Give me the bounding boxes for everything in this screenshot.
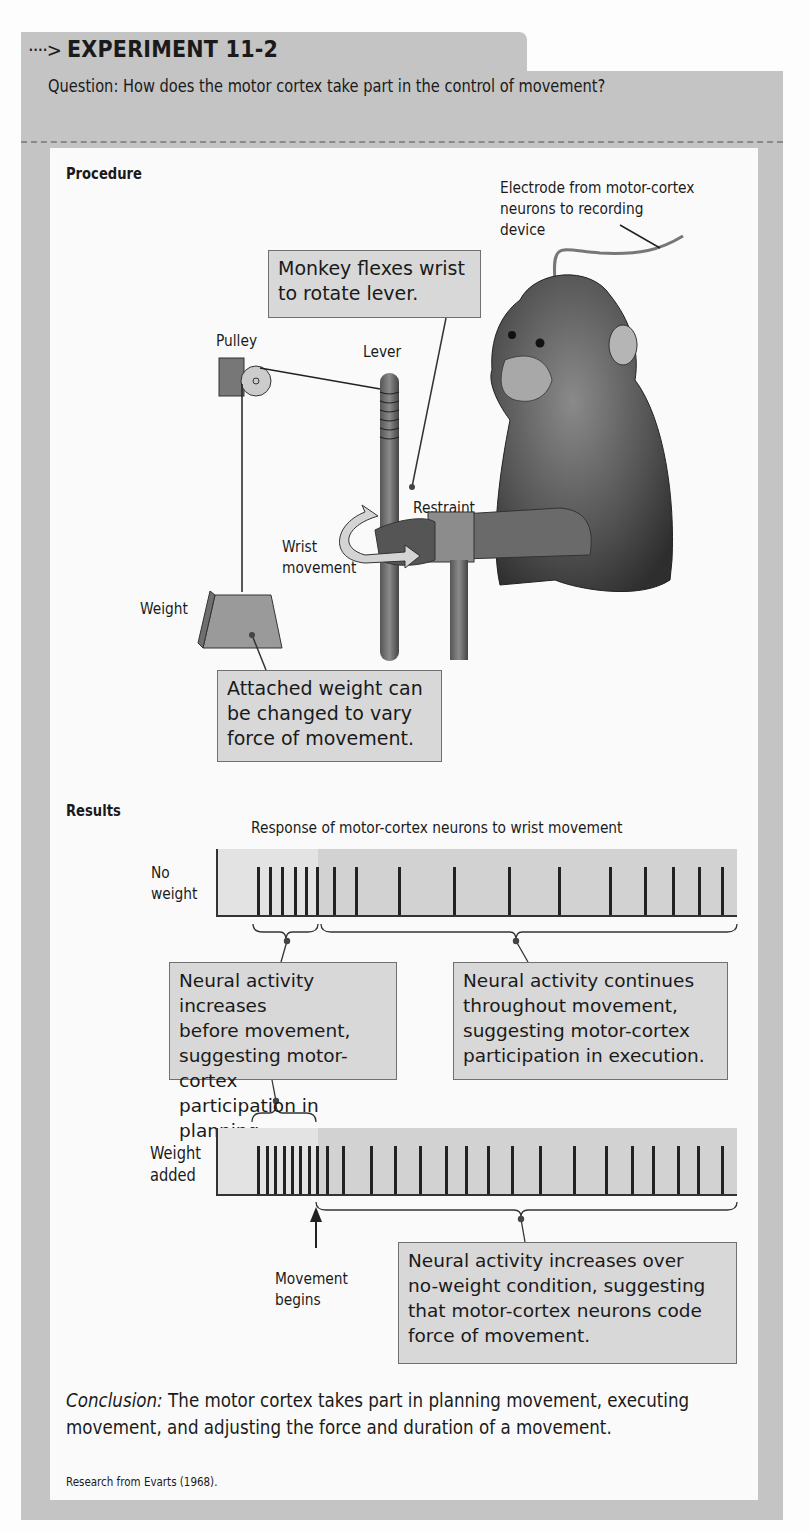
callout-line: before movement, [179,1018,387,1043]
raster-weight-added [216,1128,737,1196]
row-label-weight-added: Weight added [150,1142,201,1186]
callout-line: that motor-cortex neurons code [408,1298,727,1323]
callout-line: participation in execution. [463,1043,718,1068]
spike [677,1146,680,1194]
spike [721,1146,724,1194]
execution-callout: Neural activity continues throughout mov… [453,962,728,1080]
spike [539,1146,542,1194]
spike [274,1146,277,1194]
callout-line: force of movement. [408,1323,727,1348]
callout-line: no-weight condition, suggesting [408,1273,727,1298]
conclusion-label: Conclusion: [66,1389,163,1411]
movement-begins-label: Movement begins [275,1268,348,1310]
callout-line: Neural activity increases [179,968,387,1018]
spike [445,1146,448,1194]
research-credit: Research from Evarts (1968). [66,1475,217,1489]
spike [299,1146,302,1194]
marker-label-line: Movement [275,1268,348,1289]
spike [652,1146,655,1194]
spike [631,1146,634,1194]
callout-line: throughout movement, [463,993,718,1018]
planning-callout: Neural activity increases before movemen… [169,962,397,1080]
spike [266,1146,269,1194]
spike [283,1146,286,1194]
spike [342,1146,345,1194]
callout-line: Neural activity increases over [408,1248,727,1273]
spike [573,1146,576,1194]
spike [465,1146,468,1194]
spike [511,1146,514,1194]
force-callout: Neural activity increases over no-weight… [398,1242,737,1364]
callout-line: suggesting motor-cortex [463,1018,718,1043]
spike [326,1146,329,1194]
marker-label-line: begins [275,1289,348,1310]
spike [257,1146,260,1194]
spike [291,1146,294,1194]
spike [308,1146,311,1194]
spike [316,1146,319,1194]
spike [487,1146,490,1194]
conclusion: Conclusion: The motor cortex takes part … [66,1387,717,1441]
callout-line: Neural activity continues [463,968,718,993]
spike [394,1146,397,1194]
spike [605,1146,608,1194]
spike [370,1146,373,1194]
spike [697,1146,700,1194]
row-label-line: added [150,1164,201,1186]
callout-line: suggesting motor-cortex [179,1043,387,1093]
spike [419,1146,422,1194]
row-label-line: Weight [150,1142,201,1164]
